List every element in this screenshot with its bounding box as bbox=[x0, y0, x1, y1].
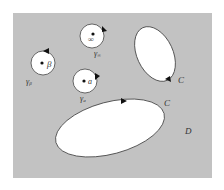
contour-label-c-upper: C bbox=[178, 75, 185, 85]
domain-diagram: ∞ β a γ∞ γβ γa C C D bbox=[0, 0, 224, 190]
point-label-infinity: ∞ bbox=[88, 35, 94, 44]
region-label-d: D bbox=[184, 126, 192, 136]
point-label-a: a bbox=[88, 77, 92, 86]
point-label-beta: β bbox=[46, 59, 52, 69]
contour-label-c-lower: C bbox=[164, 98, 171, 108]
